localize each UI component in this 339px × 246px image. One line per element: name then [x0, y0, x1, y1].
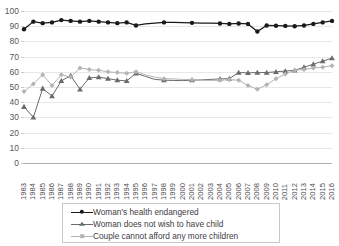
- x-axis-tick-label: 2016: [328, 183, 336, 200]
- data-point-marker: [292, 24, 296, 28]
- x-axis-tick-label: 2007: [244, 183, 252, 200]
- data-point-marker: [40, 86, 46, 91]
- x-axis-tick-label: 1984: [29, 183, 37, 200]
- x-axis-tick-label: 2004: [216, 183, 224, 200]
- x-axis-tick-label: 2000: [179, 183, 187, 200]
- x-axis-tick-label: 1993: [113, 183, 121, 200]
- legend-marker-icon: [71, 230, 93, 242]
- x-axis-tick-label: 1985: [39, 183, 47, 200]
- y-axis-tick-label: 50: [10, 83, 19, 92]
- data-point-marker: [255, 87, 260, 92]
- data-point-marker: [68, 19, 72, 23]
- y-axis-tick-label: 70: [10, 52, 19, 61]
- y-axis-tick-label: 90: [10, 22, 19, 31]
- data-point-marker: [124, 71, 129, 76]
- data-point-marker: [320, 65, 325, 70]
- data-point-marker: [106, 20, 110, 24]
- data-point-marker: [302, 23, 306, 27]
- y-axis-tick-label: 40: [10, 98, 19, 107]
- data-point-marker: [330, 19, 334, 23]
- data-point-marker: [87, 67, 92, 72]
- data-point-marker: [330, 63, 335, 68]
- x-axis-tick-label: 2014: [309, 183, 317, 200]
- x-axis-tick-label: 1989: [76, 183, 84, 200]
- data-point-marker: [264, 82, 269, 87]
- x-axis-line: [24, 163, 332, 164]
- x-axis-tick-label: 2005: [225, 183, 233, 200]
- chart-title: [60, 0, 260, 4]
- data-point-marker: [31, 19, 35, 23]
- data-point-marker: [246, 83, 251, 88]
- data-point-marker: [283, 24, 287, 28]
- y-axis-tick-label: 10: [10, 144, 19, 153]
- y-axis-tick-label: 0: [14, 159, 19, 168]
- legend-item-1[interactable]: Woman does not wish to have child: [63, 218, 279, 230]
- data-point-marker: [227, 22, 231, 26]
- data-point-marker: [22, 27, 26, 31]
- legend-item-label: Couple cannot afford any more children: [93, 232, 238, 240]
- series-line: [24, 58, 332, 117]
- data-point-marker: [58, 78, 64, 83]
- legend-item-0[interactable]: Woman's health endangered: [63, 206, 279, 218]
- legend-item-label: Woman does not wish to have child: [93, 220, 223, 228]
- x-axis-tick-label: 2009: [263, 183, 271, 200]
- x-axis-tick-label: 1986: [48, 183, 56, 200]
- x-axis-tick-label: 2010: [272, 183, 280, 200]
- series-circle: [22, 18, 334, 34]
- data-point-marker: [96, 19, 100, 23]
- x-axis-tick-label: 2012: [291, 183, 299, 200]
- chart-legend: Woman's health endangeredWoman does not …: [62, 203, 280, 243]
- y-axis-labels: 0102030405060708090100: [0, 8, 22, 164]
- data-point-marker: [115, 21, 119, 25]
- data-point-marker: [96, 68, 101, 73]
- legend-item-2[interactable]: Couple cannot afford any more children: [63, 230, 279, 242]
- series-triangle: [21, 55, 335, 119]
- data-point-marker: [218, 21, 222, 25]
- x-axis-tick-label: 2008: [253, 183, 261, 200]
- series-layer: [24, 11, 332, 163]
- data-point-marker: [190, 21, 194, 25]
- x-axis-tick-label: 1983: [20, 183, 28, 200]
- data-point-marker: [87, 19, 91, 23]
- data-point-marker: [96, 74, 102, 79]
- legend-item-label: Woman's health endangered: [93, 208, 199, 216]
- x-axis-tick-label: 2006: [235, 183, 243, 200]
- data-point-marker: [255, 29, 259, 33]
- data-point-marker: [274, 76, 279, 81]
- data-point-marker: [236, 78, 241, 83]
- x-axis-tick-label: 1990: [85, 183, 93, 200]
- data-point-marker: [236, 21, 240, 25]
- data-point-marker: [274, 24, 278, 28]
- x-axis-tick-label: 1998: [160, 183, 168, 200]
- x-axis-tick-label: 1995: [132, 183, 140, 200]
- data-point-marker: [50, 20, 54, 24]
- x-axis-tick-label: 2013: [300, 183, 308, 200]
- legend-marker-icon: [71, 206, 93, 218]
- x-axis-tick-label: 1999: [169, 183, 177, 200]
- x-axis-tick-label: 2001: [188, 183, 196, 200]
- data-point-marker: [264, 23, 268, 27]
- x-axis-tick-label: 2011: [281, 184, 289, 200]
- legend-marker-icon: [71, 218, 93, 230]
- data-point-marker: [106, 69, 111, 74]
- x-axis-tick-label: 1987: [57, 183, 65, 200]
- y-axis-tick-label: 60: [10, 68, 19, 77]
- y-axis-tick-label: 80: [10, 37, 19, 46]
- data-point-marker: [311, 22, 315, 26]
- data-point-marker: [78, 19, 82, 23]
- data-point-marker: [59, 18, 63, 22]
- x-axis-tick-label: 2003: [207, 183, 215, 200]
- x-axis-tick-label: 1992: [104, 183, 112, 200]
- x-axis-tick-label: 1991: [95, 183, 103, 200]
- data-point-marker: [134, 23, 138, 27]
- data-point-marker: [246, 22, 250, 26]
- y-axis-tick-label: 30: [10, 113, 19, 122]
- plot-canvas: [24, 11, 332, 163]
- x-axis-tick-label: 2002: [197, 183, 205, 200]
- data-point-marker: [162, 20, 166, 24]
- x-axis-labels: 1983198419851986198719881989199019911992…: [24, 166, 332, 200]
- x-axis-tick-label: 1988: [67, 183, 75, 200]
- x-axis-tick-label: 2015: [319, 183, 327, 200]
- y-axis-tick-label: 100: [5, 7, 19, 16]
- data-point-marker: [115, 70, 120, 75]
